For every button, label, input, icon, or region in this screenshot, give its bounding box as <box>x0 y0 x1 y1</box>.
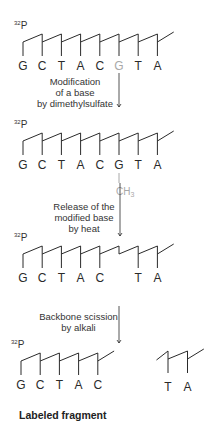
base-labels-methylated: GCTACGTA <box>18 158 161 172</box>
isotope-label-2: 32P <box>14 119 27 130</box>
base-A: A <box>77 158 85 172</box>
step-caption-release: Release of the modified base by heat <box>44 201 124 234</box>
base-C: C <box>38 271 47 285</box>
base-A: A <box>77 59 85 73</box>
step-caption-scission: Backbone scission by alkali <box>36 311 121 333</box>
base-G: G <box>16 378 25 392</box>
methyl-group-label: CH3 <box>116 186 134 198</box>
isotope-label-4: 32P <box>11 339 24 350</box>
base-A: A <box>153 158 161 172</box>
base-T: T <box>164 380 172 394</box>
base-labels-depurinated: GCTACTA <box>18 271 161 285</box>
base-C: C <box>36 378 45 392</box>
labeled-fragment-caption: Labeled fragment <box>19 409 107 421</box>
base-A: A <box>75 378 83 392</box>
base-G: G <box>114 59 123 73</box>
labeled-fragment-strand <box>21 351 114 375</box>
base-T: T <box>58 59 66 73</box>
unlabeled-fragment-strand <box>156 349 203 373</box>
base-C: C <box>95 158 104 172</box>
base-T: T <box>135 158 143 172</box>
base-T: T <box>56 378 64 392</box>
base-A: A <box>153 59 161 73</box>
base-C: C <box>95 59 104 73</box>
base-G: G <box>114 158 123 172</box>
base-T: T <box>58 158 66 172</box>
isotope-label-3: 32P <box>14 232 27 243</box>
base-A: A <box>77 271 85 285</box>
base-C: C <box>38 59 47 73</box>
dna-strand-original <box>23 32 174 56</box>
step-caption-modification: Modification of a base by dimethylsulfat… <box>30 76 120 109</box>
unlabeled-fragment-bases: TA <box>164 380 191 394</box>
dna-strand-methylated <box>23 131 174 155</box>
base-C: C <box>93 378 102 392</box>
base-G: G <box>18 271 27 285</box>
base-G: G <box>18 158 27 172</box>
base-T: T <box>135 271 143 285</box>
base-C: C <box>95 271 104 285</box>
base-C: C <box>38 158 47 172</box>
base-A: A <box>183 380 191 394</box>
isotope-label-1: 32P <box>14 20 27 31</box>
dna-strand-depurinated <box>23 244 174 268</box>
base-T: T <box>58 271 66 285</box>
base-T: T <box>135 59 143 73</box>
labeled-fragment-bases: GCTAC <box>16 378 102 392</box>
base-G: G <box>18 59 27 73</box>
base-labels-original: GCTACGTA <box>18 59 161 73</box>
base-A: A <box>153 271 161 285</box>
